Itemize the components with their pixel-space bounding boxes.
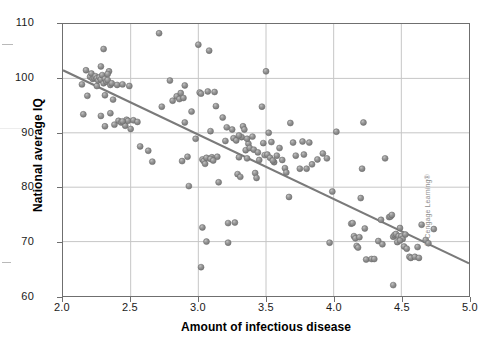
data-point (415, 244, 421, 250)
data-point (199, 224, 205, 230)
data-point (167, 78, 173, 84)
data-point (329, 189, 335, 195)
data-point (134, 119, 140, 125)
data-point (213, 103, 219, 109)
data-point (80, 111, 86, 117)
data-point (237, 174, 243, 180)
data-point (94, 83, 100, 89)
data-point (254, 175, 260, 181)
data-point (225, 240, 231, 246)
data-point (83, 67, 89, 73)
data-point (397, 225, 403, 231)
data-point (431, 226, 437, 232)
data-point (255, 149, 261, 155)
data-point (324, 155, 330, 161)
data-point (159, 104, 165, 110)
data-point (232, 220, 238, 226)
data-point (287, 120, 293, 126)
data-point (371, 256, 377, 262)
data-point (114, 82, 120, 88)
data-point (304, 166, 310, 172)
data-point (110, 97, 116, 103)
data-point (202, 161, 208, 167)
scatter-plot-figure: 60708090100110 2.02.53.03.54.04.55.0 Amo… (0, 0, 503, 350)
data-point (189, 109, 195, 115)
data-point (350, 220, 356, 226)
data-point (358, 195, 364, 201)
data-point (360, 119, 366, 125)
data-point (301, 152, 307, 158)
data-point (120, 81, 126, 87)
data-point (266, 130, 272, 136)
data-point (333, 129, 339, 135)
data-point (193, 136, 199, 142)
data-point (222, 138, 228, 144)
data-point (206, 48, 212, 54)
data-point (277, 145, 283, 151)
data-point (182, 119, 188, 125)
data-point (210, 158, 216, 164)
data-point (286, 194, 292, 200)
data-point (249, 134, 255, 140)
x-axis-label: Amount of infectious disease (62, 320, 470, 334)
x-tick-mark (266, 297, 267, 302)
scan-artifact-top (2, 44, 13, 45)
data-point (355, 245, 361, 251)
data-point (274, 153, 280, 159)
data-point (179, 158, 185, 164)
data-point (145, 148, 151, 154)
data-point (244, 155, 250, 161)
data-point (402, 232, 408, 238)
data-point (268, 139, 274, 145)
y-tick-label: 70 (4, 236, 34, 247)
y-tick-label: 90 (4, 127, 34, 138)
data-point (98, 63, 104, 69)
data-point (236, 133, 242, 139)
data-point (156, 30, 162, 36)
data-point (300, 139, 306, 145)
data-point (256, 157, 262, 163)
data-point (320, 150, 326, 156)
data-point (109, 80, 115, 86)
x-tick-mark (62, 297, 63, 302)
data-point (390, 282, 396, 288)
data-point (389, 212, 395, 218)
data-point (220, 115, 226, 121)
data-point (362, 226, 368, 232)
data-point (382, 155, 388, 161)
data-point (126, 83, 132, 89)
data-point (186, 183, 192, 189)
y-tick-label: 60 (4, 291, 34, 302)
data-point (356, 234, 362, 240)
data-point (259, 104, 265, 110)
x-tick-label: 5.0 (450, 302, 490, 313)
data-point (185, 154, 191, 160)
plot-area (62, 23, 470, 297)
data-point (404, 246, 410, 252)
data-point (180, 95, 186, 101)
data-point (293, 153, 299, 159)
data-point (149, 159, 155, 165)
y-tick-label: 80 (4, 181, 34, 192)
data-point (105, 71, 111, 77)
y-axis-label: National average IQ (31, 55, 45, 255)
data-point (263, 68, 269, 74)
data-point (182, 82, 188, 88)
data-point (244, 136, 250, 142)
data-point (306, 140, 312, 146)
data-point (216, 179, 222, 185)
data-point (379, 241, 385, 247)
plot-canvas (63, 24, 469, 296)
data-point (241, 127, 247, 133)
x-tick-label: 2.5 (110, 302, 150, 313)
data-point (107, 110, 113, 116)
data-point (283, 170, 289, 176)
data-point (270, 158, 276, 164)
data-point (378, 217, 384, 223)
data-point (198, 91, 204, 97)
x-tick-mark (470, 297, 471, 302)
y-tick-label: 100 (4, 72, 34, 83)
data-point (236, 154, 242, 160)
data-point (79, 81, 85, 87)
data-point (309, 161, 315, 167)
